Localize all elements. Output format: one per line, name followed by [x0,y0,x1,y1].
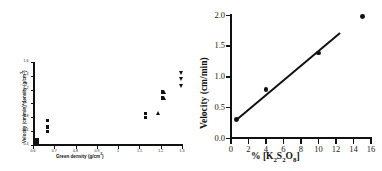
left-y-ticklabel: 1 [22,101,30,105]
left-y-ticklabel: 1.4 [22,73,30,77]
right-x-axis-title: % [K2S2O8] [251,152,300,164]
left-x-ticklabel: 1.3 [177,150,187,154]
chart-panel-right: Velocity (cm/min) % [K2S2O8] 0.0 0.5 1.0… [191,0,382,171]
data-point-square [35,141,39,145]
data-point-triangle-down [179,84,183,88]
right-y-ticklabel: 0.5 [205,103,225,112]
right-x-ticklabel: 2 [241,145,255,154]
left-x-ticklabel: 0.8 [71,150,81,154]
data-point-triangle-down [179,77,183,81]
right-y-axis-title-text: Velocity (cm/min) [199,57,209,129]
left-y-tick [31,90,34,91]
left-x-ticklabel: 1 [113,150,123,154]
right-y-axis-title: Velocity (cm/min) [200,57,210,129]
right-x-ticklabel: 16 [364,145,378,154]
left-x-ticklabel: 0.7 [49,150,59,154]
right-y-ticklabel: 1.0 [205,72,225,81]
chart-panel-left: Velocity (cm/min)*density (g/cm3) Green … [0,0,191,171]
left-y-tick [31,103,34,104]
right-y-tick [226,107,231,109]
left-x-ticklabel: 1.1 [134,150,144,154]
left-y-tick [31,76,34,77]
data-point-triangle-up [162,90,166,94]
left-x-axis-title-tail: ) [102,154,104,159]
data-point-triangle-down [179,71,183,75]
left-x-ticklabel: 1.2 [156,150,166,154]
data-point-square [46,119,50,123]
right-y-tick [226,76,231,78]
right-x-ticklabel: 12 [329,145,343,154]
data-point-circle [234,117,239,122]
right-x-ticklabel: 8 [294,145,308,154]
right-x-ticklabel: 10 [311,145,325,154]
left-y-ticklabel: 1.2 [22,87,30,91]
data-point-square [46,130,50,134]
two-panel-figure: Velocity (cm/min)*density (g/cm3) Green … [0,0,382,171]
left-y-tick [31,117,34,118]
data-point-triangle-up [156,111,160,115]
left-y-ticklabel: 0.4 [22,143,30,147]
right-y-tick [226,15,231,17]
right-x-ticklabel: 4 [259,145,273,154]
right-x-ticklabel: 14 [346,145,360,154]
right-y-tick [226,45,231,47]
right-x-ticklabel: 0 [224,145,238,154]
linear-fit-line [234,32,340,121]
data-point-circle [360,14,365,19]
left-y-tick [31,62,34,63]
right-y-ticklabel: 0.0 [205,134,225,143]
data-point-square [35,138,39,142]
left-y-axis-title-text: Velocity (cm/min)*density (g/cm [22,74,27,143]
data-point-square [46,125,50,129]
left-y-ticklabel: 0.8 [22,115,30,119]
right-y-ticklabel: 1.5 [205,41,225,50]
left-x-ticklabel: 0.6 [28,150,38,154]
left-y-ticklabel: 1.6 [22,60,30,64]
left-y-ticklabel: 0.6 [22,129,30,133]
right-y-ticklabel: 2.0 [205,11,225,20]
left-x-ticklabel: 0.9 [92,150,102,154]
left-x-axis-title: Green density (g/cm3) [56,153,104,159]
left-y-tick [31,131,34,132]
data-point-triangle-up [162,96,166,100]
data-point-square [144,112,148,116]
data-point-circle [316,51,321,56]
data-point-square [144,116,148,120]
right-x-ticklabel: 6 [276,145,290,154]
left-x-axis-title-text: Green density (g/cm [56,154,100,159]
